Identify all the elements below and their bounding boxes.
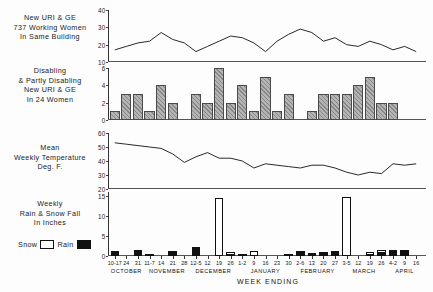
label-line: New URI & GE xyxy=(2,13,98,23)
y-tick-mark xyxy=(106,175,109,176)
bar xyxy=(330,94,340,120)
chart-figure: New URI & GE 737 Working Women In Same B… xyxy=(0,0,433,292)
bar xyxy=(365,77,375,120)
x-tick-mark xyxy=(300,256,301,259)
x-tick-label: 31 xyxy=(135,260,141,266)
y-tick-mark xyxy=(106,133,109,134)
bar xyxy=(134,250,143,256)
x-tick-mark xyxy=(219,256,220,259)
label-line: 737 Working Women xyxy=(2,23,98,33)
x-tick-mark xyxy=(277,256,278,259)
x-tick-label: 19 xyxy=(216,260,222,266)
label-line: Disabling xyxy=(2,66,98,76)
bar xyxy=(296,251,305,256)
bar xyxy=(342,94,352,120)
x-tick-mark xyxy=(416,256,417,259)
y-tick-mark xyxy=(106,147,109,148)
x-tick-label: 30 xyxy=(286,260,292,266)
x-tick-label: 10-17 xyxy=(108,260,122,266)
x-month-label: OCTOBER xyxy=(111,268,142,274)
legend-label-rain: Rain xyxy=(57,240,73,249)
x-month-label: MARCH xyxy=(353,268,376,274)
legend-swatch-snow xyxy=(40,240,54,249)
plot-area-precipitation xyxy=(108,192,426,256)
y-tick-mark xyxy=(106,45,109,46)
y-tick-label: 40 xyxy=(98,158,105,165)
bar xyxy=(331,251,340,256)
bar xyxy=(400,250,409,256)
y-tick-label: 30 xyxy=(98,24,105,31)
x-tick-label: 27 xyxy=(332,260,338,266)
y-tick-mark xyxy=(106,27,109,28)
x-tick-label: 11-7 xyxy=(144,260,155,266)
label-line: Weekly xyxy=(2,199,98,209)
x-tick-mark xyxy=(196,256,197,259)
plot-area-temperature xyxy=(108,133,426,189)
panel-label-precipitation: Weekly Rain & Snow Fall In Inches xyxy=(2,199,98,228)
x-tick-label: 13 xyxy=(309,260,315,266)
bar xyxy=(284,254,293,256)
x-tick-mark xyxy=(231,256,232,259)
bar xyxy=(307,111,317,120)
x-tick-mark xyxy=(393,256,394,259)
x-tick-mark xyxy=(150,256,151,259)
bar xyxy=(388,103,398,120)
label-line: Mean xyxy=(2,143,98,153)
label-line: Rain & Snow Fall xyxy=(2,209,98,219)
y-tick-label: 60 xyxy=(98,130,105,137)
y-tick-mark xyxy=(106,161,109,162)
x-tick-mark xyxy=(173,256,174,259)
label-line: In 24 Women xyxy=(2,95,98,105)
bar xyxy=(168,103,178,120)
bar xyxy=(284,94,294,120)
label-line: In Inches xyxy=(2,218,98,228)
x-tick-mark xyxy=(115,256,116,259)
x-tick-label: 9 xyxy=(252,260,255,266)
bar xyxy=(145,254,154,256)
panel-disabling: 0246 xyxy=(108,68,426,120)
x-tick-mark xyxy=(312,256,313,259)
x-tick-label: 28 xyxy=(181,260,187,266)
x-tick-label: 14 xyxy=(158,260,164,266)
y-tick-label: 40 xyxy=(98,7,105,14)
x-tick-mark xyxy=(161,256,162,259)
label-line: In Same Building xyxy=(2,32,98,42)
bar xyxy=(377,252,386,256)
x-tick-mark xyxy=(370,256,371,259)
bar xyxy=(156,85,166,120)
bar xyxy=(249,111,259,120)
x-tick-label: 2-6 xyxy=(296,260,304,266)
bar xyxy=(318,94,328,120)
bar xyxy=(366,254,375,256)
bar xyxy=(214,68,224,120)
y-tick-label: 30 xyxy=(98,172,105,179)
x-tick-label: 26 xyxy=(228,260,234,266)
x-month-label: NOVEMBER xyxy=(149,268,185,274)
plot-area-disabling xyxy=(108,68,426,120)
x-tick-mark xyxy=(381,256,382,259)
y-tick-mark xyxy=(106,189,109,190)
x-tick-label: 20 xyxy=(320,260,326,266)
panel-temperature: 2030405060 xyxy=(108,133,426,189)
x-axis-title: WEEK ENDING xyxy=(237,278,299,285)
x-tick-mark xyxy=(242,256,243,259)
label-line: Weekly Temperature xyxy=(2,153,98,163)
x-tick-mark xyxy=(138,256,139,259)
bar xyxy=(226,254,235,256)
bar xyxy=(110,111,120,120)
y-tick-mark xyxy=(106,85,109,86)
x-tick-label: 12-5 xyxy=(190,260,201,266)
precipitation-legend: Snow Rain xyxy=(18,240,91,249)
x-tick-mark xyxy=(254,256,255,259)
y-tick-mark xyxy=(106,103,109,104)
y-tick-mark xyxy=(106,10,109,11)
panel-label-temperature: Mean Weekly Temperature Deg. F. xyxy=(2,143,98,172)
x-tick-label: 4-2 xyxy=(389,260,397,266)
x-tick-label: 19 xyxy=(367,260,373,266)
panel-uri-ge: 10203040 xyxy=(108,10,426,62)
x-month-label: JANUARY xyxy=(251,268,281,274)
y-tick-mark xyxy=(106,120,109,121)
x-tick-label: 3-5 xyxy=(343,260,351,266)
x-tick-mark xyxy=(266,256,267,259)
line-series xyxy=(108,133,426,189)
